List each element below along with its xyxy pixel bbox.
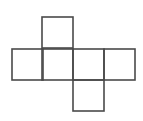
net-square-top (42, 17, 73, 48)
cube-net-diagram (0, 0, 143, 121)
net-square-row-4 (104, 49, 135, 80)
net-square-row-2 (42, 49, 73, 80)
net-square-row-3 (73, 49, 104, 80)
net-square-bottom (73, 80, 104, 111)
net-square-row-1 (12, 49, 43, 80)
